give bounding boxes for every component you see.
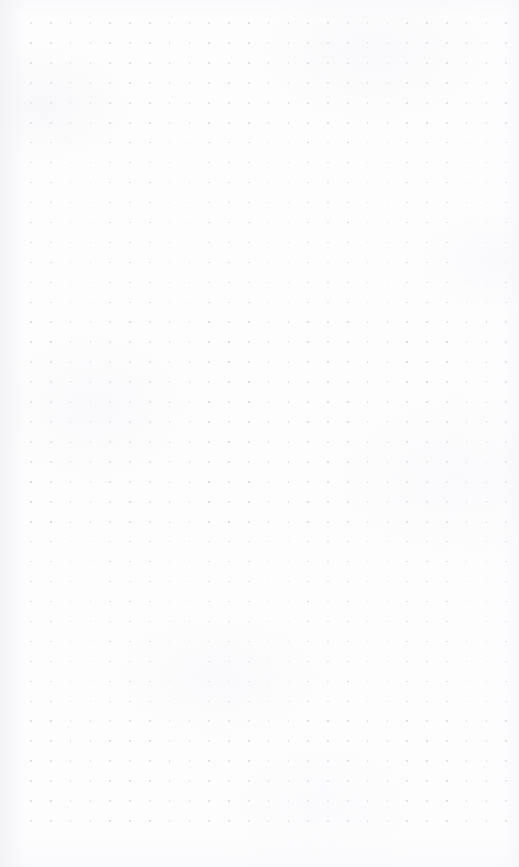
paper-background bbox=[0, 0, 519, 867]
dot-grid-page bbox=[0, 0, 519, 867]
